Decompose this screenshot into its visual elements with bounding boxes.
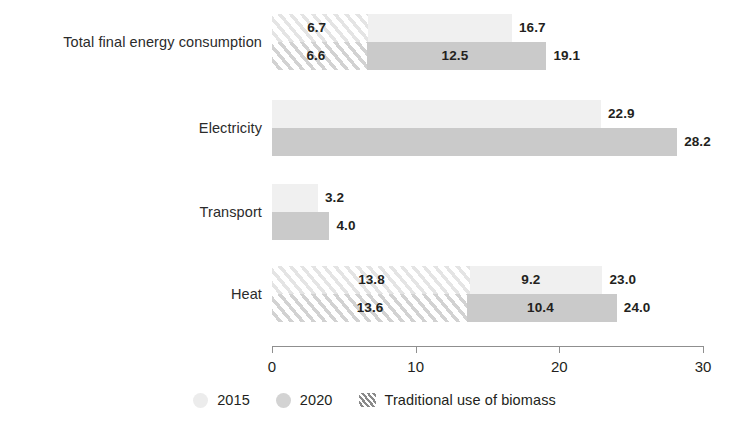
legend-circle-swatch-icon	[276, 393, 291, 408]
value-label-biomass: 6.6	[306, 49, 325, 63]
bar-2015-1	[272, 100, 601, 128]
value-label-biomass: 13.8	[358, 273, 385, 287]
value-label-total: 24.0	[624, 301, 651, 315]
legend-item-2015[interactable]: 2015	[193, 392, 250, 408]
legend-label: 2015	[217, 392, 250, 408]
x-axis-line	[272, 346, 704, 347]
bar-2020-1	[272, 128, 677, 156]
legend-label: Traditional use of biomass	[385, 392, 556, 408]
legend-circle-swatch-icon	[193, 393, 208, 408]
legend-label: 2020	[300, 392, 333, 408]
value-label-total: 23.0	[609, 273, 636, 287]
value-label-total: 3.2	[325, 191, 344, 205]
bar-2015-3	[272, 266, 602, 294]
legend-item-traditional-biomass[interactable]: Traditional use of biomass	[359, 392, 556, 408]
value-label-total: 16.7	[519, 21, 546, 35]
horizontal-stacked-bar-chart: Total final energy consumption6.716.76.6…	[0, 0, 749, 432]
segment-modern-renewables	[272, 212, 329, 240]
category-label: Heat	[231, 287, 262, 302]
chart-legend: 20152020Traditional use of biomass	[0, 392, 749, 408]
x-axis-tick	[416, 346, 417, 353]
value-label-biomass: 13.6	[357, 301, 384, 315]
segment-modern-renewables	[272, 128, 677, 156]
bar-2020-2	[272, 212, 329, 240]
legend-item-2020[interactable]: 2020	[276, 392, 333, 408]
category-label: Total final energy consumption	[63, 35, 262, 50]
value-label-total: 22.9	[608, 107, 635, 121]
segment-modern-renewables	[272, 100, 601, 128]
category-label: Transport	[200, 205, 262, 220]
x-axis-tick	[559, 346, 560, 353]
value-label-modern: 9.2	[521, 273, 540, 287]
x-axis-tick-label: 20	[551, 359, 568, 374]
bar-2015-2	[272, 184, 318, 212]
value-label-modern: 12.5	[442, 49, 469, 63]
x-axis-tick	[272, 346, 273, 353]
x-axis-tick-label: 0	[268, 359, 276, 374]
segment-modern-renewables	[272, 184, 318, 212]
value-label-total: 19.1	[553, 49, 580, 63]
x-axis-tick-label: 10	[407, 359, 424, 374]
x-axis-tick-label: 30	[695, 359, 712, 374]
category-label: Electricity	[199, 121, 262, 136]
segment-modern-renewables	[368, 14, 512, 42]
value-label-total: 28.2	[684, 135, 711, 149]
value-label-biomass: 6.7	[307, 21, 326, 35]
legend-hatch-swatch-icon	[359, 393, 376, 407]
x-axis-tick	[703, 346, 704, 353]
value-label-total: 4.0	[336, 219, 355, 233]
value-label-modern: 10.4	[527, 301, 554, 315]
bar-2020-3	[272, 294, 617, 322]
